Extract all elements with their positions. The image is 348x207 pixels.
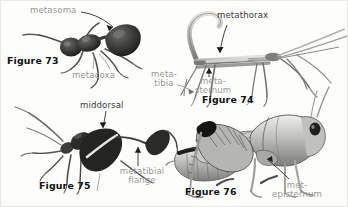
figure-75-number: Figure 75: [39, 180, 91, 191]
plate-artwork: [1, 1, 348, 207]
label-metathorax: metathorax: [217, 11, 268, 20]
label-metatibial-flange: metatibial flange: [115, 167, 169, 185]
leader-middorsal: [100, 111, 107, 128]
figure-76-number: Figure 76: [185, 186, 237, 197]
figure-73-number: Figure 73: [7, 55, 59, 66]
label-metacoxa: metacoxa: [72, 71, 115, 80]
figure-plate: metasoma Figure 73 metacoxa metathorax m…: [0, 0, 348, 207]
figure-74-number: Figure 74: [202, 94, 254, 105]
label-meta-sternum: meta- sternum: [191, 77, 235, 95]
label-middorsal: middorsal: [80, 101, 124, 110]
leader-metatibial-flange: [135, 147, 141, 166]
label-meta-tibia: meta- tibia: [147, 70, 181, 88]
leader-metathorax: [217, 25, 227, 53]
label-metasoma: metasoma: [30, 6, 76, 15]
leader-figure-75-tick: [97, 173, 100, 191]
label-met-episternum: met- episternum: [266, 181, 328, 199]
leader-metasoma: [81, 12, 113, 31]
figure-76-leg-fragment: [217, 179, 233, 185]
